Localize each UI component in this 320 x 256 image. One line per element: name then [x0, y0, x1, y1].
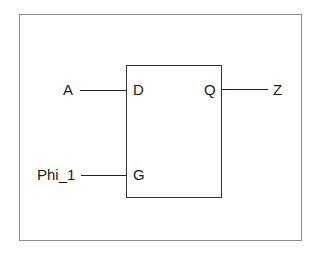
port-q-label: Q: [204, 82, 216, 97]
signal-phi1-label: Phi_1: [37, 167, 75, 182]
wire-a-to-d: [80, 90, 126, 91]
wire-q-to-z: [222, 89, 268, 90]
signal-a-label: A: [63, 82, 73, 97]
signal-z-label: Z: [273, 82, 282, 97]
port-d-label: D: [133, 82, 144, 97]
wire-phi1-to-g: [81, 175, 126, 176]
port-g-label: G: [133, 167, 145, 182]
